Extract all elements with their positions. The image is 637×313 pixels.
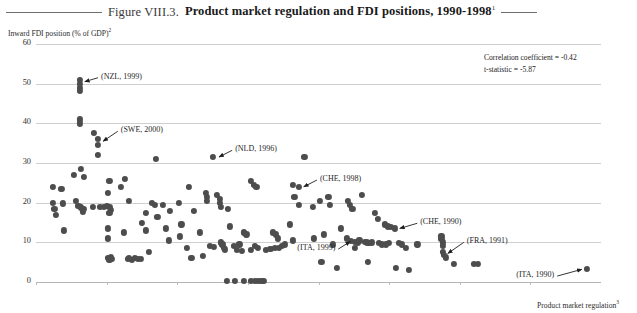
- data-point: [139, 219, 145, 225]
- data-point: [122, 176, 128, 182]
- data-point: [146, 249, 152, 255]
- title-rule-left: [6, 12, 102, 13]
- data-point: [105, 225, 111, 231]
- y-tick-label-50: 50: [3, 78, 31, 87]
- x-axis-title-text: Product market regulation: [537, 301, 616, 310]
- data-point: [89, 204, 95, 210]
- data-point: [260, 278, 266, 284]
- data-point: [109, 256, 115, 262]
- data-point: [77, 120, 83, 126]
- annotation-label-ita1999: (ITA, 1999): [297, 243, 335, 252]
- data-point: [255, 245, 261, 251]
- data-point: [105, 235, 111, 241]
- x-tick-0: [36, 282, 37, 285]
- data-point: [296, 202, 302, 208]
- data-point: [236, 241, 242, 247]
- data-point: [178, 221, 184, 227]
- data-point: [311, 235, 317, 241]
- data-point: [211, 244, 217, 250]
- data-point: [383, 241, 389, 247]
- data-point: [118, 184, 124, 190]
- data-point: [365, 259, 371, 265]
- data-point: [369, 239, 375, 245]
- data-point: [406, 267, 412, 273]
- data-point: [58, 186, 64, 192]
- data-point: [160, 202, 166, 208]
- data-point: [301, 154, 307, 160]
- gridline-y-30: [36, 163, 601, 164]
- data-point: [61, 227, 67, 233]
- data-point: [327, 202, 333, 208]
- data-point: [226, 223, 232, 229]
- data-point: [80, 208, 86, 214]
- x-axis-title: Product market regulation3: [537, 299, 619, 310]
- data-point: [154, 213, 160, 219]
- data-point: [241, 278, 247, 284]
- x-tick-4: [319, 282, 320, 285]
- data-point: [393, 265, 399, 271]
- gridline-y-50: [36, 84, 601, 85]
- x-tick-5: [389, 282, 390, 285]
- data-point: [184, 245, 190, 251]
- data-point: [77, 88, 83, 94]
- data-point: [451, 261, 457, 267]
- data-point: [224, 278, 230, 284]
- data-point: [143, 227, 149, 233]
- data-point: [352, 245, 358, 251]
- gridline-y-60: [36, 44, 601, 45]
- data-point: [253, 184, 259, 190]
- y-tick-label-10: 10: [3, 236, 31, 245]
- x-tick-6: [460, 282, 461, 285]
- data-point: [310, 204, 316, 210]
- y-tick-label-30: 30: [3, 157, 31, 166]
- data-point: [167, 208, 173, 214]
- data-point: [218, 204, 224, 210]
- annotation-label-che1990: (CHE, 1990): [420, 217, 461, 226]
- title-rule-right: [501, 12, 537, 13]
- data-point: [375, 215, 381, 221]
- gridline-y-40: [36, 123, 601, 124]
- data-point: [334, 265, 340, 271]
- data-point: [78, 166, 84, 172]
- data-point: [71, 172, 77, 178]
- data-point: [243, 231, 249, 237]
- data-point: [440, 242, 446, 248]
- data-point: [443, 254, 449, 260]
- data-point: [325, 194, 331, 200]
- x-tick-2: [177, 282, 178, 285]
- data-point: [584, 266, 590, 272]
- data-point: [177, 233, 183, 239]
- data-point: [222, 246, 228, 252]
- annotation-label-fra1991: (FRA, 1991): [467, 236, 508, 245]
- figure-title-text: Product market regulation and FDI positi…: [185, 5, 492, 19]
- data-point: [188, 255, 194, 261]
- data-point: [209, 154, 215, 160]
- annotation-label-nld1996: (NLD, 1996): [235, 144, 277, 153]
- annotation-label-swe2000: (SWE, 2000): [121, 125, 163, 134]
- data-point: [197, 229, 203, 235]
- data-point: [200, 253, 206, 259]
- data-point: [153, 156, 159, 162]
- data-point: [105, 190, 111, 196]
- annotation-label-nzl1999: (NZL, 1999): [101, 72, 142, 81]
- figure-number: Figure VIII.3.: [108, 5, 179, 20]
- x-tick-7: [530, 282, 531, 285]
- data-point: [81, 174, 87, 180]
- data-point: [95, 142, 101, 148]
- annotation-label-ita1990: (ITA, 1990): [516, 270, 554, 279]
- data-point: [191, 208, 197, 214]
- data-point: [321, 231, 327, 237]
- annotation-label-che1998: (CHE, 1998): [320, 174, 361, 183]
- data-point: [291, 194, 297, 200]
- y-axis-title-text: Inward FDI position (% of GDP): [8, 29, 109, 38]
- data-point: [296, 184, 302, 190]
- data-point: [106, 209, 112, 215]
- data-point: [176, 200, 182, 206]
- data-point: [287, 221, 293, 227]
- data-point: [137, 256, 143, 262]
- data-point: [225, 206, 231, 212]
- y-tick-label-20: 20: [3, 197, 31, 206]
- data-point: [475, 261, 481, 267]
- y-tick-label-0: 0: [3, 276, 31, 285]
- data-point: [185, 184, 191, 190]
